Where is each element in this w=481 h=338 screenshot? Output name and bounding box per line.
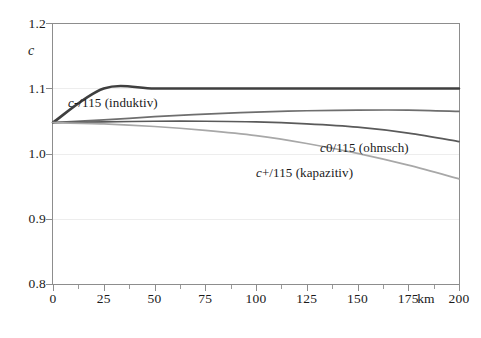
x-tick-label: 50 [135, 292, 175, 306]
x-tick-label: 100 [236, 292, 276, 306]
x-tick-mark-minor [383, 285, 384, 289]
chart-figure: c 1.2 1.1 1.0 0.9 0.8 [0, 0, 481, 338]
curve-annotation-kapazitiv: c+/115 (kapazitiv) [256, 166, 353, 180]
x-tick-mark-minor [180, 285, 181, 289]
annotation-text: -/115 (induktiv) [74, 95, 158, 110]
x-tick-label: 25 [84, 292, 124, 306]
x-tick-mark-minor [129, 285, 130, 289]
x-tick-label: 0 [33, 292, 73, 306]
x-tick-mark-minor [78, 285, 79, 289]
x-tick-mark-minor [231, 285, 232, 289]
x-tick-mark-minor [434, 285, 435, 289]
series-induktiv [53, 110, 459, 123]
x-tick-label: 75 [185, 292, 225, 306]
annotation-text: 0/115 (ohmsch) [326, 140, 409, 155]
curve-annotation-induktiv: c-/115 (induktiv) [68, 96, 158, 110]
curve-annotation-ohmsch: c0/115 (ohmsch) [320, 141, 409, 155]
x-axis-unit-label: km [411, 292, 441, 306]
x-tick-label: 150 [338, 292, 378, 306]
x-tick-mark-minor [281, 285, 282, 289]
x-tick-mark-minor [332, 285, 333, 289]
x-tick-label: 125 [287, 292, 327, 306]
x-tick-label: 200 [439, 292, 479, 306]
annotation-text: +/115 (kapazitiv) [262, 165, 353, 180]
